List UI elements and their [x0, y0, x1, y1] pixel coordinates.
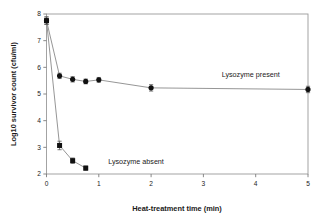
y-tick-label: 3 — [37, 144, 41, 151]
x-tick-label: 5 — [306, 180, 310, 187]
y-tick-label: 5 — [37, 90, 41, 97]
y-tick-label: 6 — [37, 64, 41, 71]
data-point-square — [57, 143, 62, 148]
y-tick-label: 4 — [37, 117, 41, 124]
x-tick-label: 4 — [254, 180, 258, 187]
y-tick-label: 2 — [37, 170, 41, 177]
y-tick-label: 8 — [37, 10, 41, 17]
data-point-circle — [83, 79, 88, 84]
chart-figure: 012345 2345678 Lysozyme presentLysozyme … — [0, 0, 324, 221]
x-tick-label: 2 — [149, 180, 153, 187]
x-tick-label: 3 — [202, 180, 206, 187]
x-tick-label: 1 — [97, 180, 101, 187]
data-point-circle — [305, 87, 310, 92]
x-tick-label: 0 — [45, 180, 49, 187]
data-point-circle — [70, 77, 75, 82]
data-point-square — [70, 158, 75, 163]
y-axis-title: Log10 survivor count (cfu/ml) — [9, 42, 18, 146]
series-label: Lysozyme absent — [108, 157, 164, 166]
chart-canvas: 012345 2345678 Lysozyme presentLysozyme … — [0, 0, 324, 221]
data-point-circle — [96, 77, 101, 82]
x-axis-title: Heat-treatment time (min) — [132, 204, 222, 213]
data-point-circle — [57, 73, 62, 78]
data-point-square — [83, 166, 88, 171]
series-label: Lysozyme present — [222, 70, 280, 79]
data-point-circle — [149, 85, 154, 90]
y-tick-label: 7 — [37, 37, 41, 44]
data-point-square — [44, 18, 49, 23]
chart-background — [0, 0, 324, 221]
